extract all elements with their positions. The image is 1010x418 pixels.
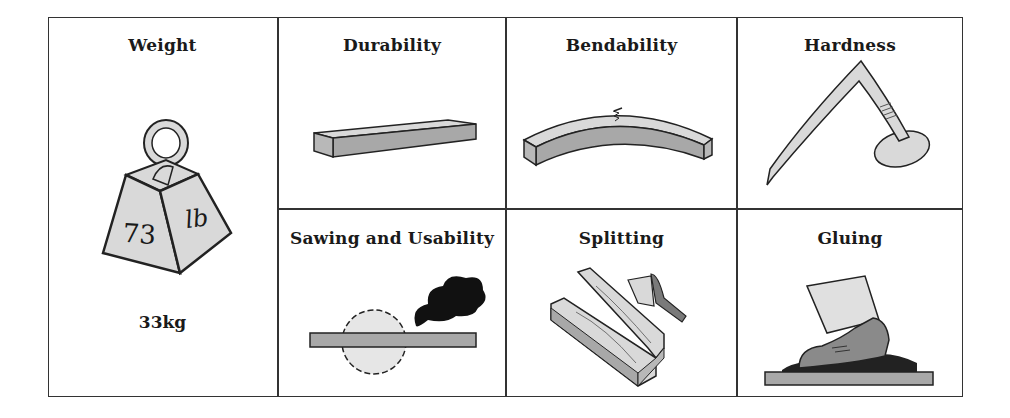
- split-log-axe-icon: [506, 208, 737, 397]
- cell-sawing: Sawing and Usability: [278, 208, 506, 397]
- weight-unit: lb: [183, 203, 210, 234]
- weight-caption: 33kg: [48, 312, 277, 332]
- wooden-plank-icon: [278, 17, 506, 208]
- bent-nail-icon: [737, 17, 963, 208]
- cell-weight: Weight 73 lb 33kg: [48, 17, 277, 397]
- weight-icon: 73 lb: [48, 17, 277, 397]
- cell-hardness: Hardness: [737, 17, 963, 208]
- cell-splitting: Splitting: [506, 208, 737, 397]
- cell-bendability: Bendability: [506, 17, 737, 208]
- shoe-glue-icon: [737, 208, 963, 397]
- cell-durability: Durability: [278, 17, 506, 208]
- weight-number: 73: [122, 218, 157, 250]
- cell-gluing: Gluing: [737, 208, 963, 397]
- circular-saw-smoke-icon: [278, 208, 506, 397]
- bent-plank-icon: [506, 17, 737, 208]
